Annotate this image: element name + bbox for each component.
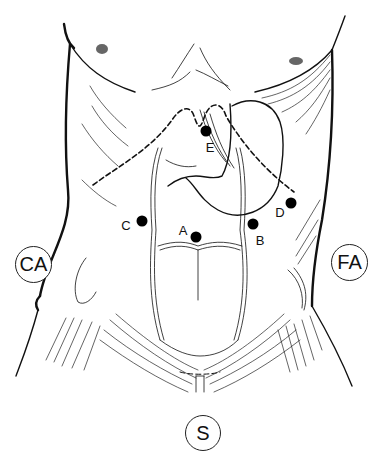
point-C-dot bbox=[137, 216, 148, 227]
diaphragm-dashed-line bbox=[93, 105, 294, 192]
region-label-CA-text: CA bbox=[20, 253, 48, 276]
lower-abdomen-hatching bbox=[100, 314, 300, 392]
torso-illustration bbox=[0, 0, 382, 466]
region-label-CA: CA bbox=[15, 246, 52, 283]
point-B-dot bbox=[248, 219, 259, 230]
rectus-abdominis bbox=[150, 148, 247, 356]
region-label-FA: FA bbox=[331, 244, 368, 281]
point-label-D: D bbox=[275, 206, 284, 219]
region-label-S: S bbox=[185, 415, 221, 451]
nipple-right bbox=[289, 57, 303, 65]
ribs-left bbox=[82, 86, 128, 206]
nipple-left bbox=[96, 44, 108, 54]
point-label-B: B bbox=[256, 234, 265, 247]
point-A-dot bbox=[191, 232, 202, 243]
point-label-E: E bbox=[206, 141, 215, 154]
region-label-S-text: S bbox=[196, 422, 209, 445]
palpation-points bbox=[137, 126, 297, 243]
point-label-C: C bbox=[121, 219, 130, 232]
point-D-dot bbox=[286, 198, 297, 209]
organ-outline bbox=[168, 101, 283, 215]
point-label-A: A bbox=[179, 224, 188, 237]
point-E-dot bbox=[201, 126, 212, 137]
body-outline-left bbox=[16, 44, 100, 376]
region-label-FA-text: FA bbox=[337, 251, 361, 274]
